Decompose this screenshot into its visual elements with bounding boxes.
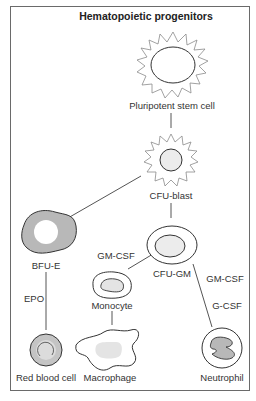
blast-to-bfue-line [68,176,141,218]
label-macrophage: Macrophage [84,372,137,383]
label-cfu-gm: CFU-GM [153,268,191,279]
label-gm-csf-left: GM-CSF [97,250,134,261]
cfu-blast-icon [144,134,198,186]
red-blood-cell-icon [30,334,62,366]
macrophage-icon [76,329,139,370]
diagram-title: Hematopoietic progenitors [0,10,256,22]
label-cfu-blast: CFU-blast [150,190,193,201]
label-epo: EPO [24,293,44,304]
label-g-csf: G-CSF [212,300,242,311]
stem-cell-icon [137,32,208,98]
label-neutrophil: Neutrophil [200,372,243,383]
neutrophil-icon [202,328,242,368]
label-bfu-e: BFU-E [32,260,61,271]
lineage-diagram [0,0,256,401]
label-gm-csf-right: GM-CSF [206,273,243,284]
bfu-e-icon [22,211,77,254]
label-pluripotent-stem-cell: Pluripotent stem cell [129,100,215,111]
label-monocyte: Monocyte [91,300,132,311]
label-red-blood-cell: Red blood cell [16,372,76,383]
cfu-gm-icon [147,226,197,264]
monocyte-icon [93,272,131,298]
